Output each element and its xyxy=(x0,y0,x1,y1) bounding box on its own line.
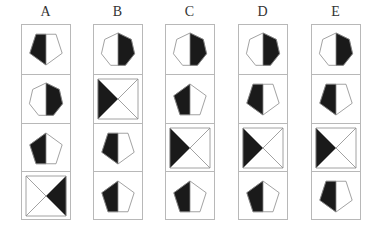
pentagon-up-shape-icon xyxy=(239,172,287,220)
pentagon-down-shape-icon xyxy=(312,75,360,123)
option-column-e[interactable] xyxy=(311,24,361,220)
option-column-b[interactable] xyxy=(93,24,143,220)
option-e-cell-4 xyxy=(312,171,360,220)
pentagon-up-shape-icon xyxy=(22,124,70,172)
option-label-a: A xyxy=(21,4,70,20)
pentagon-down-shape-icon xyxy=(312,172,360,220)
option-label-e: E xyxy=(311,4,360,20)
option-column-d[interactable] xyxy=(238,24,288,220)
option-column-c[interactable] xyxy=(165,24,215,220)
option-b-cell-3 xyxy=(94,123,142,172)
option-e-cell-2 xyxy=(312,74,360,123)
option-column-a[interactable] xyxy=(21,24,71,220)
option-a-cell-2 xyxy=(22,74,70,123)
option-label-b: B xyxy=(93,4,142,20)
option-d-cell-3 xyxy=(239,123,287,172)
option-label-d: D xyxy=(238,4,287,20)
option-a-cell-1 xyxy=(22,25,70,73)
heptagon-shape-icon xyxy=(239,25,287,73)
option-label-c: C xyxy=(165,4,214,20)
x-square-shape-icon xyxy=(166,124,214,172)
option-b-cell-4 xyxy=(94,171,142,220)
option-c-cell-3 xyxy=(166,123,214,172)
pentagon-up-shape-icon xyxy=(166,172,214,220)
pentagon-up-shape-icon xyxy=(94,172,142,220)
pentagon-down-shape-icon xyxy=(239,75,287,123)
option-c-cell-4 xyxy=(166,171,214,220)
option-d-cell-2 xyxy=(239,74,287,123)
option-b-cell-2 xyxy=(94,74,142,123)
x-square-shape-icon xyxy=(312,124,360,172)
option-a-cell-4 xyxy=(22,171,70,220)
heptagon-shape-icon xyxy=(22,75,70,123)
heptagon-shape-icon xyxy=(312,25,360,73)
pentagon-down-shape-icon xyxy=(22,25,70,73)
option-d-cell-1 xyxy=(239,25,287,73)
option-c-cell-1 xyxy=(166,25,214,73)
pentagon-up-shape-icon xyxy=(166,75,214,123)
option-c-cell-2 xyxy=(166,74,214,123)
option-b-cell-1 xyxy=(94,25,142,73)
x-square-shape-icon xyxy=(94,75,142,123)
heptagon-shape-icon xyxy=(94,25,142,73)
option-a-cell-3 xyxy=(22,123,70,172)
option-e-cell-1 xyxy=(312,25,360,73)
x-square-shape-icon xyxy=(239,124,287,172)
option-d-cell-4 xyxy=(239,171,287,220)
x-square-shape-icon xyxy=(22,172,70,220)
option-e-cell-3 xyxy=(312,123,360,172)
heptagon-shape-icon xyxy=(166,25,214,73)
pentagon-down-shape-icon xyxy=(94,124,142,172)
